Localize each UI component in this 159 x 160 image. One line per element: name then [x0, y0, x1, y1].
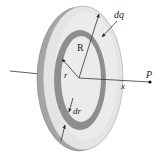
label-r: r	[64, 70, 68, 80]
axis-line-left	[10, 71, 40, 74]
point-p-dot	[148, 80, 151, 83]
charged-disk-diagram: dq R r P x dr	[0, 0, 159, 160]
label-x: x	[120, 81, 125, 91]
label-dq: dq	[114, 9, 124, 20]
label-P: P	[145, 69, 152, 80]
label-dr: dr	[73, 106, 82, 116]
label-R: R	[77, 42, 84, 53]
